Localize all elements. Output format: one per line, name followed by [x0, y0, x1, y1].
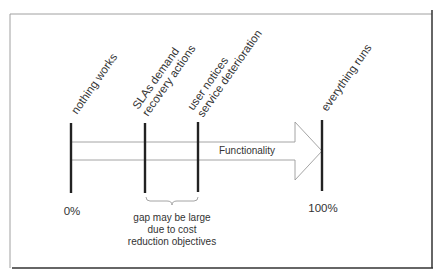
- label-everything-runs: everything runs: [319, 42, 374, 113]
- gap-note-line-1: gap may be large: [133, 212, 211, 223]
- label-user-notices-2: service deterioration: [195, 27, 264, 119]
- gap-note: gap may be large due to cost reduction o…: [128, 212, 216, 247]
- label-0-percent: 0%: [64, 205, 81, 217]
- rotated-labels: nothing works SLAs demand recovery actio…: [69, 21, 374, 120]
- gap-note-line-3: reduction objectives: [128, 236, 216, 247]
- functionality-diagram: Functionality nothing works SLAs demand …: [0, 0, 440, 275]
- functionality-arrow: Functionality: [71, 122, 322, 180]
- gap-note-line-2: due to cost: [148, 224, 197, 235]
- label-nothing-works: nothing works: [69, 51, 120, 116]
- gap-brace: [146, 197, 198, 205]
- label-100-percent: 100%: [308, 202, 337, 214]
- arrow-label: Functionality: [219, 145, 275, 156]
